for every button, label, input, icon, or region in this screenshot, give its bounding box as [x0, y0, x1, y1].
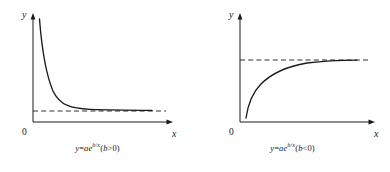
x-axis-label-left: x: [171, 128, 177, 139]
plot-right: y x 0: [195, 0, 390, 145]
chart-panel-left: y x 0 y=aeb/x(b>0): [0, 0, 195, 172]
plot-left: y x 0: [0, 0, 195, 145]
x-axis-label-right: x: [373, 128, 379, 139]
caption-right-condition-close: ): [312, 143, 315, 153]
caption-left-condition-close: ): [117, 143, 120, 153]
y-axis-label-right: y: [228, 9, 234, 20]
caption-left: y=aeb/x(b>0): [0, 143, 195, 153]
curve-rising-exponential: [246, 60, 357, 118]
curve-decaying-exponential: [40, 19, 153, 110]
origin-label-right: 0: [229, 127, 234, 137]
y-axis-label-left: y: [21, 9, 27, 20]
y-axis-arrowhead-right: [238, 13, 243, 20]
y-axis-arrowhead-left: [31, 13, 36, 20]
chart-panel-right: y x 0 y=aeb/x(b<0): [195, 0, 390, 172]
x-axis-arrowhead-right: [369, 120, 376, 125]
figure-container: y x 0 y=aeb/x(b>0) y x 0: [0, 0, 390, 172]
origin-label-left: 0: [22, 127, 27, 137]
x-axis-arrowhead-left: [167, 120, 174, 125]
caption-right: y=aeb/x(b<0): [195, 143, 390, 153]
